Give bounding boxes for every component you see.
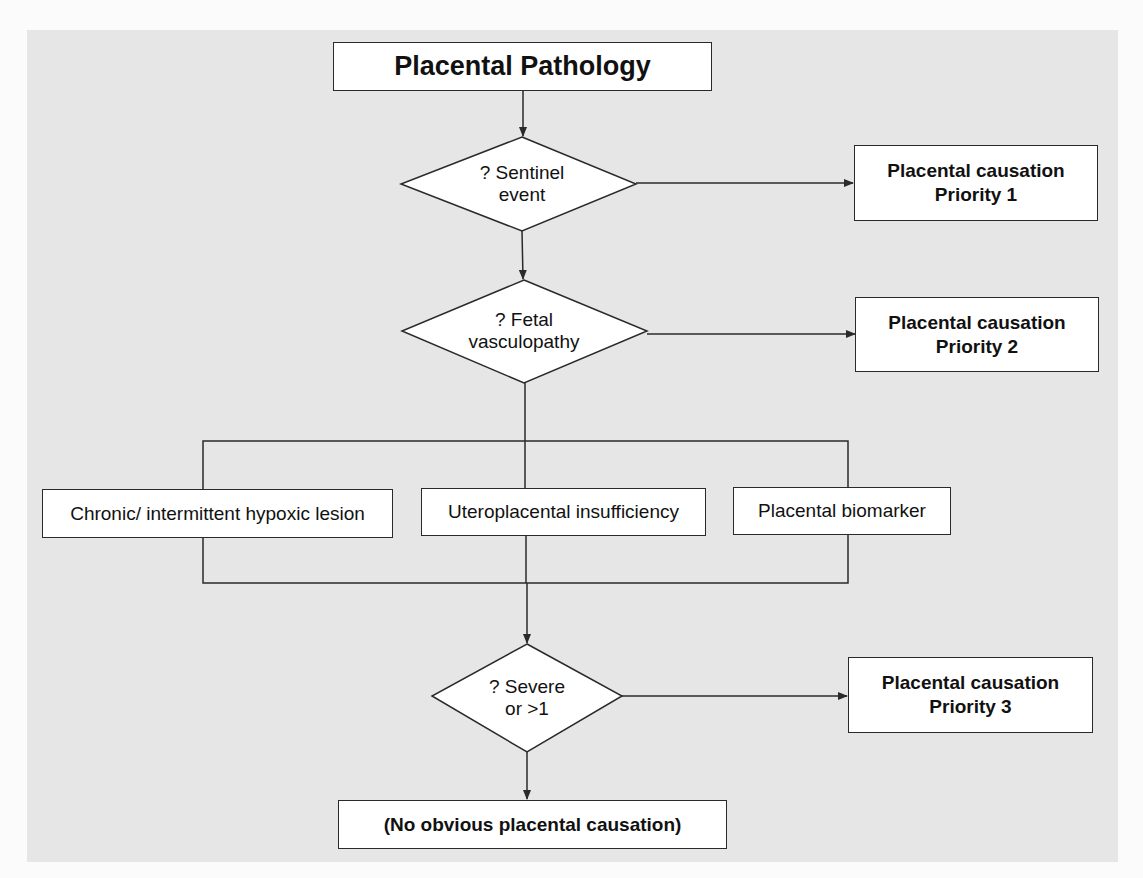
- outcome-priority-3: Placental causation Priority 3: [848, 657, 1093, 733]
- page-title: Placental Pathology: [394, 51, 651, 82]
- decision-label-severe: ? Severe or >1: [467, 674, 587, 722]
- decision-label-sentinel: ? Sentinel event: [440, 160, 604, 208]
- category-uteroplacental: Uteroplacental insufficiency: [421, 488, 706, 536]
- decision-label-fetal: ? Fetal vasculopathy: [444, 307, 604, 355]
- category-biomarker: Placental biomarker: [733, 487, 951, 535]
- outcome-priority-1: Placental causation Priority 1: [854, 145, 1098, 221]
- final-no-causation: (No obvious placental causation): [338, 800, 727, 849]
- category-chronic-hypoxic: Chronic/ intermittent hypoxic lesion: [42, 489, 393, 538]
- arrow-sentinel-to-fetal: [522, 231, 523, 279]
- title-box: Placental Pathology: [333, 42, 712, 91]
- flowchart-connectors: [0, 0, 1143, 878]
- outcome-priority-2: Placental causation Priority 2: [855, 297, 1099, 372]
